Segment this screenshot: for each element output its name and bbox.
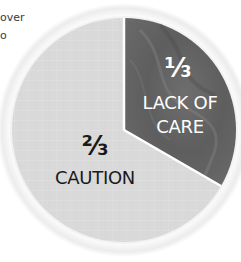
caution-label: CAUTION <box>55 167 135 189</box>
pie-chart <box>0 0 241 262</box>
lack-of-care-label-line-1: LACK OF <box>143 92 218 114</box>
lack-of-care-fraction: ⅓ <box>165 54 192 82</box>
caution-fraction: ⅔ <box>82 132 109 160</box>
lack-of-care-label-line-2: CARE <box>156 116 204 138</box>
